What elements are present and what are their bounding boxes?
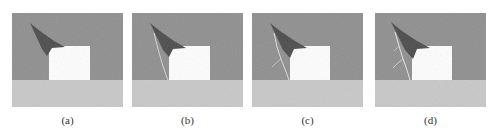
panel-b [132, 13, 243, 107]
caption-c: (c) [252, 114, 363, 126]
simulation-image-a [12, 13, 123, 107]
panel-d [375, 13, 486, 107]
caption-b: (b) [132, 114, 243, 126]
simulation-image-d [375, 13, 486, 107]
panel-c [252, 13, 363, 107]
figure: (a) (b) (c) [0, 0, 498, 134]
panel-a [12, 13, 123, 107]
simulation-image-c [252, 13, 363, 107]
caption-a: (a) [12, 114, 123, 126]
caption-d: (d) [375, 114, 486, 126]
simulation-image-b [132, 13, 243, 107]
